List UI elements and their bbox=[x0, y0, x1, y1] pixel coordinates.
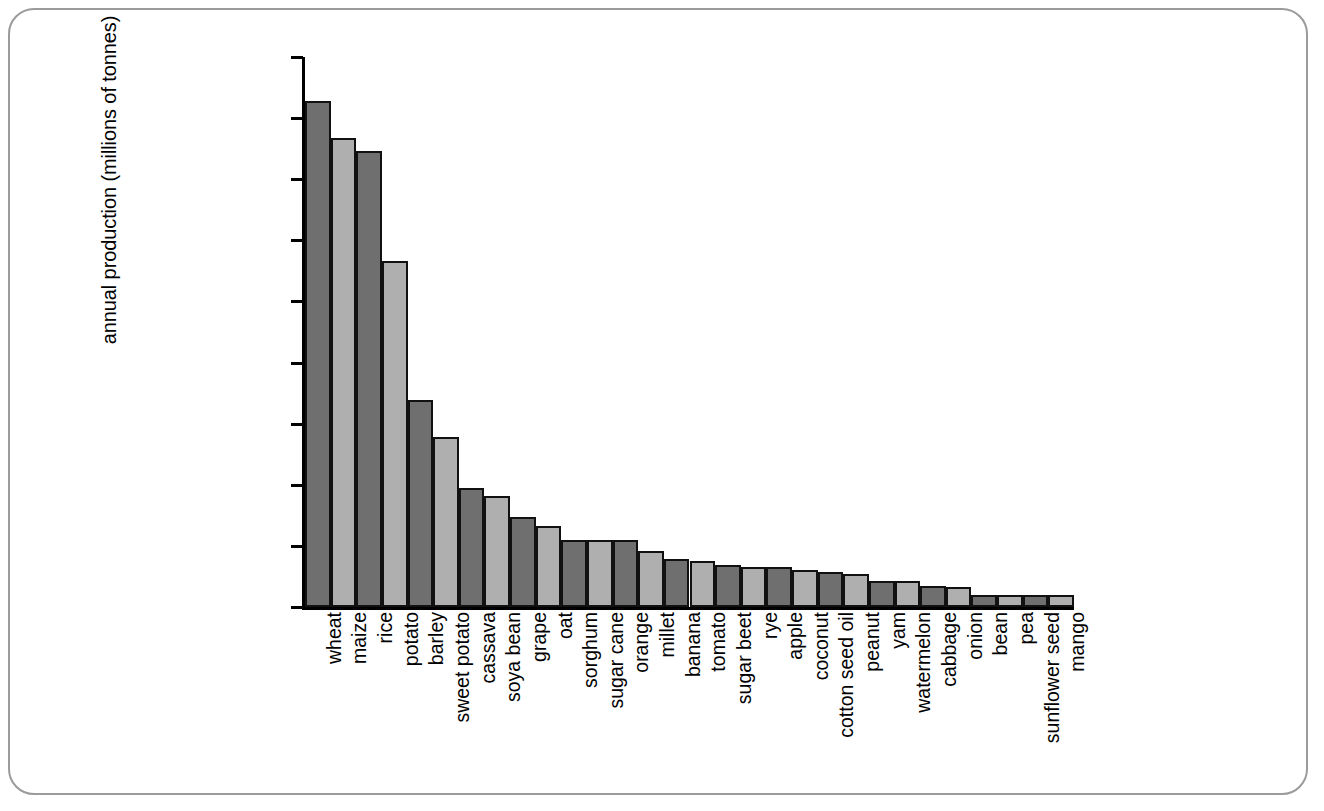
bars-layer bbox=[305, 57, 1074, 607]
bar bbox=[792, 570, 818, 607]
bar bbox=[946, 587, 972, 607]
bar bbox=[664, 559, 690, 607]
bar bbox=[433, 437, 459, 607]
x-tick-label: sunflower seed bbox=[1043, 612, 1063, 743]
x-tick-label: orange bbox=[632, 612, 652, 673]
y-tick-mark bbox=[291, 423, 303, 426]
x-tick-label: oat bbox=[556, 612, 576, 639]
y-tick-mark bbox=[291, 300, 303, 303]
x-tick-label: yam bbox=[889, 612, 909, 649]
y-tick-mark bbox=[291, 56, 303, 59]
x-tick-label: wheat bbox=[325, 612, 345, 664]
bar bbox=[843, 574, 869, 607]
bar bbox=[510, 517, 536, 607]
x-tick-label: tomato bbox=[709, 612, 729, 672]
x-tick-label: cotton seed oil bbox=[837, 612, 857, 738]
x-tick-label: millet bbox=[658, 612, 678, 658]
bar bbox=[408, 400, 434, 607]
x-tick-label: rye bbox=[761, 612, 781, 639]
bar bbox=[613, 540, 639, 607]
x-tick-label: mango bbox=[1068, 612, 1088, 672]
x-tick-label: coconut bbox=[812, 612, 832, 680]
y-tick-mark bbox=[291, 362, 303, 365]
bar bbox=[331, 138, 357, 607]
x-tick-label: apple bbox=[786, 612, 806, 660]
y-tick-mark bbox=[291, 484, 303, 487]
x-tick-label: onion bbox=[966, 612, 986, 660]
x-tick-label: cabbage bbox=[940, 612, 960, 687]
bar bbox=[305, 101, 331, 607]
bar bbox=[484, 496, 510, 607]
y-tick-mark bbox=[291, 545, 303, 548]
bar bbox=[741, 567, 767, 607]
bar bbox=[382, 261, 408, 607]
x-tick-label: banana bbox=[684, 612, 704, 677]
bar-chart-figure: annual production (millions of tonnes) 4… bbox=[0, 0, 1324, 811]
x-tick-label: grape bbox=[530, 612, 550, 662]
x-tick-label: barley bbox=[427, 612, 447, 665]
x-tick-label: bean bbox=[991, 612, 1011, 655]
bar bbox=[561, 540, 587, 607]
x-tick-label: watermelon bbox=[914, 612, 934, 713]
bar bbox=[971, 595, 997, 607]
y-tick-mark bbox=[291, 117, 303, 120]
bar bbox=[638, 551, 664, 607]
bar bbox=[766, 567, 792, 607]
x-axis-labels: wheatmaizericepotatobarleysweet potatoca… bbox=[302, 612, 1074, 792]
bar bbox=[997, 595, 1023, 607]
plot-area: 450400350300250200150100500 bbox=[302, 57, 1074, 608]
x-tick-label: peanut bbox=[863, 612, 883, 672]
y-tick-mark bbox=[291, 606, 303, 609]
bar bbox=[690, 561, 716, 607]
bar bbox=[818, 572, 844, 607]
bar bbox=[1023, 595, 1049, 607]
x-tick-label: sugar beet bbox=[735, 612, 755, 704]
x-tick-label: sugar cane bbox=[607, 612, 627, 708]
bar bbox=[587, 540, 613, 607]
x-tick-label: rice bbox=[376, 612, 396, 643]
x-tick-label: pea bbox=[1017, 612, 1037, 645]
y-axis-title: annual production (millions of tonnes) bbox=[98, 15, 122, 345]
x-tick-label: soya bean bbox=[504, 612, 524, 702]
x-tick-label: maize bbox=[350, 612, 370, 664]
bar bbox=[869, 581, 895, 607]
x-tick-label: potato bbox=[402, 612, 422, 666]
x-tick-label: sweet potato bbox=[453, 612, 473, 723]
x-axis-line bbox=[302, 607, 1074, 610]
x-tick-label: sorghum bbox=[581, 612, 601, 688]
bar bbox=[1048, 595, 1074, 607]
y-tick-mark bbox=[291, 239, 303, 242]
bar bbox=[715, 565, 741, 607]
bar bbox=[459, 488, 485, 607]
x-tick-label: cassava bbox=[479, 612, 499, 684]
y-tick-mark bbox=[291, 178, 303, 181]
bar bbox=[536, 526, 562, 607]
bar bbox=[895, 581, 921, 607]
bar bbox=[920, 586, 946, 607]
bar bbox=[356, 151, 382, 607]
